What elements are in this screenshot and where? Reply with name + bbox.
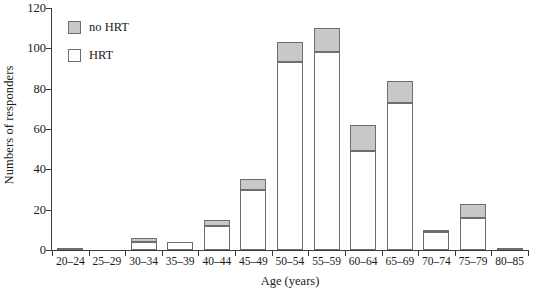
legend-label: HRT xyxy=(89,49,113,62)
x-axis-tick-label: 60–64 xyxy=(345,254,382,268)
x-axis-tick-label: 40–44 xyxy=(198,254,235,268)
legend-label: no HRT xyxy=(89,21,129,34)
x-axis-tick-mark xyxy=(528,250,529,256)
bar-segment-no-hrt xyxy=(387,81,413,103)
y-axis-tick-label: 80 xyxy=(14,83,46,95)
legend-item-no-hrt: no HRT xyxy=(68,16,198,38)
bar-segment-hrt xyxy=(423,232,449,250)
chart-figure: Numbers of responders 020406080100120 20… xyxy=(0,0,538,296)
bar-segment-no-hrt xyxy=(423,230,449,232)
bar-70-74 xyxy=(423,230,449,250)
y-axis-tick-labels: 020406080100120 xyxy=(12,0,46,296)
bar-segment-hrt xyxy=(387,103,413,250)
chart-legend: no HRTHRT xyxy=(68,16,198,72)
x-axis-tick-label: 30–34 xyxy=(125,254,162,268)
y-axis-tick-label: 40 xyxy=(14,163,46,175)
y-axis-tick-mark xyxy=(46,169,52,170)
y-axis-tick-mark xyxy=(46,89,52,90)
bar-40-44 xyxy=(204,220,230,250)
y-axis-tick-label: 20 xyxy=(14,204,46,216)
bar-segment-no-hrt xyxy=(240,179,266,189)
x-axis-tick-label: 70–74 xyxy=(418,254,455,268)
x-axis-tick-label: 45–49 xyxy=(235,254,272,268)
x-axis-tick-label: 35–39 xyxy=(162,254,199,268)
x-axis-tick-label: 55–59 xyxy=(308,254,345,268)
bar-segment-hrt xyxy=(277,62,303,250)
bar-30-34 xyxy=(131,238,157,250)
bar-segment-no-hrt xyxy=(131,238,157,242)
bar-segment-hrt xyxy=(131,242,157,250)
x-axis-tick-label: 25–29 xyxy=(89,254,126,268)
x-axis-tick-label: 20–24 xyxy=(52,254,89,268)
bar-segment-hrt xyxy=(167,242,193,250)
bar-segment-hrt xyxy=(460,218,486,250)
x-axis-tick-labels: 20–2425–2930–3435–3940–4445–4950–5455–59… xyxy=(52,254,528,270)
bar-segment-no-hrt xyxy=(57,248,83,250)
bar-65-69 xyxy=(387,81,413,250)
bar-20-24 xyxy=(57,248,83,250)
bar-segment-no-hrt xyxy=(497,248,523,250)
x-axis-tick-label: 50–54 xyxy=(272,254,309,268)
x-axis-tick-label: 65–69 xyxy=(382,254,419,268)
bar-segment-hrt xyxy=(240,190,266,251)
bar-55-59 xyxy=(314,28,340,250)
bar-segment-no-hrt xyxy=(314,28,340,52)
x-axis-tick-label: 75–79 xyxy=(455,254,492,268)
y-axis-tick-mark xyxy=(46,129,52,130)
bar-50-54 xyxy=(277,42,303,250)
bar-segment-no-hrt xyxy=(460,204,486,218)
bar-80-85 xyxy=(497,248,523,250)
y-axis-tick-mark xyxy=(46,48,52,49)
y-axis-tick-label: 100 xyxy=(14,42,46,54)
bar-75-79 xyxy=(460,204,486,250)
bar-segment-no-hrt xyxy=(350,125,376,151)
y-axis-tick-label: 60 xyxy=(14,123,46,135)
bar-60-64 xyxy=(350,125,376,250)
y-axis-tick-mark xyxy=(46,8,52,9)
bar-segment-hrt xyxy=(314,52,340,250)
bar-segment-no-hrt xyxy=(204,220,230,226)
legend-swatch-icon xyxy=(68,49,81,62)
bar-45-49 xyxy=(240,179,266,250)
legend-swatch-icon xyxy=(68,21,81,34)
x-axis-line xyxy=(51,250,529,251)
y-axis-tick-mark xyxy=(46,210,52,211)
x-axis-title: Age (years) xyxy=(52,274,528,288)
bar-35-39 xyxy=(167,242,193,250)
legend-item-hrt: HRT xyxy=(68,44,198,66)
bar-segment-hrt xyxy=(350,151,376,250)
x-axis-tick-label: 80–85 xyxy=(491,254,528,268)
y-axis-tick-label: 0 xyxy=(14,244,46,256)
bar-segment-hrt xyxy=(204,226,230,250)
bar-segment-no-hrt xyxy=(277,42,303,62)
y-axis-tick-label: 120 xyxy=(14,2,46,14)
